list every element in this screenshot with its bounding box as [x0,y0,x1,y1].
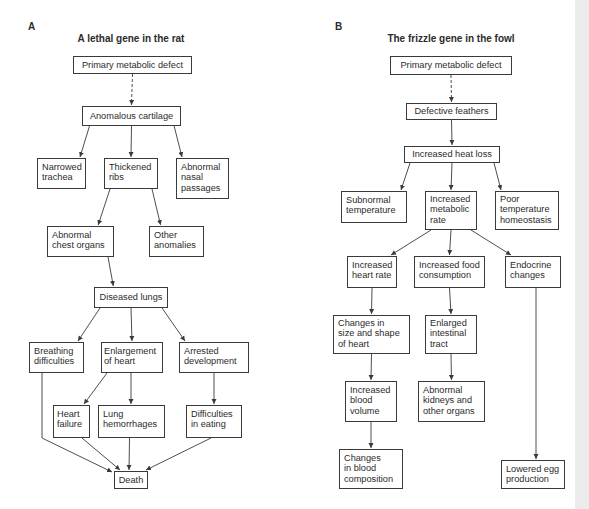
connector-arrow [451,354,452,380]
node-death: Death [114,471,148,489]
connector-arrow [452,120,453,145]
node-enlarged-intestinal-tract: Enlarged intestinal tract [425,315,477,354]
node-primary-metabolic-defect: Primary metabolic defect [73,56,192,74]
connector-arrow [152,189,161,225]
node-defective-feathers: Defective feathers [406,103,497,120]
node-subnormal-temperature: Subnormal temperature [341,191,407,223]
panel-a-title: A lethal gene in the rat [78,33,185,44]
node-increased-food-consumption: Increased food consumption [414,256,485,288]
node-other-anomalies: Other anomalies [149,226,204,257]
connector-arrow [131,308,132,341]
node-abnormal-chest-organs: Abnormal chest organs [47,226,114,257]
connector-arrow [371,354,372,380]
connector-arrow [494,163,501,190]
node-anomalous-cartilage: Anomalous cartilage [82,106,181,126]
connector-arrow [401,163,410,190]
node-lowered-egg-production: Lowered egg production [501,460,565,489]
connector-arrow [84,373,107,404]
connector-arrow [98,189,110,225]
node-difficulties-in-eating: Difficulties in eating [186,405,242,438]
connector-arrow [80,126,90,157]
node-heart-failure: Heart failure [53,405,90,438]
node-abnormal-kidneys: Abnormal kidneys and other organs [418,381,485,422]
connector-arrow [82,438,120,470]
node-diseased-lungs: Diseased lungs [94,287,168,308]
connector-arrow [146,438,211,470]
connector-arrow [108,257,113,286]
node-increased-heart-rate: Increased heart rate [347,256,397,288]
panel-b-label: B [335,21,342,32]
node-abnormal-nasal-passages: Abnormal nasal passages [176,158,229,199]
connector-arrow [174,126,182,157]
node-narrowed-trachea: Narrowed trachea [37,158,86,189]
node-arrested-development: Arrested development [179,342,249,373]
node-endocrine-changes: Endocrine changes [505,256,561,288]
node-lung-hemorrhages: Lung hemorrhages [98,405,165,438]
connector-arrow [450,288,452,314]
node-enlargement-of-heart: Enlargement of heart [101,342,163,373]
node-breathing-difficulties: Breathing difficulties [29,342,84,373]
node-primary-metabolic-defect: Primary metabolic defect [390,56,512,75]
node-changes-size-shape-heart: Changes in size and shape of heart [333,315,410,354]
node-poor-temperature-homeostasis: Poor temperature homeostasis [495,191,559,230]
panel-a-label: A [28,21,35,32]
connector-arrow [131,126,132,157]
node-increased-metabolic-rate: Increased metabolic rate [425,191,477,230]
connector-arrow [129,438,130,470]
connector-arrow [451,163,452,190]
connector-arrow [132,74,133,105]
connector-arrow [450,230,452,255]
node-changes-blood-composition: Changes in blood composition [339,449,403,489]
panel-b-title: The frizzle gene in the fowl [387,33,514,44]
connector-arrow [78,308,100,341]
connector-arrow [451,75,452,102]
connector-arrow [391,230,431,255]
node-increased-heat-loss: Increased heat loss [404,146,500,163]
node-thickened-ribs: Thickened ribs [104,158,158,189]
connector-arrow [471,230,511,255]
connector-arrow [162,308,185,341]
node-increased-blood-volume: Increased blood volume [345,381,397,422]
connector-arrow [372,288,373,314]
